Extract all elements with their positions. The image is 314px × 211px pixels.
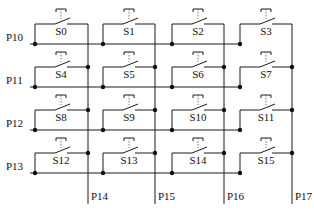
column-bus-p17: P17 [292,24,313,204]
column-bus-p15: P15 [155,24,176,204]
switch-s14: S14 [170,138,226,175]
junction-dot [170,171,174,175]
switch-label: S3 [260,25,272,37]
switch-s3: S3 [238,9,292,46]
switch-s9: S9 [101,95,157,132]
junction-dot [153,65,157,69]
junction-dot [290,108,294,112]
junction-dot [222,65,226,69]
junction-dot [290,65,294,69]
junction-dot [238,85,242,89]
switch-label: S1 [123,25,135,37]
column-label: P17 [295,190,313,202]
row-label: P10 [6,31,24,43]
switch-s15: S15 [238,138,294,175]
column-bus-p16: P16 [224,24,245,204]
switch-label: S7 [260,68,272,80]
switch-label: S9 [123,111,135,123]
junction-dot [101,42,105,46]
junction-dot [238,42,242,46]
switch-s2: S2 [170,9,224,46]
switch-s12: S12 [33,138,90,175]
switch-label: S15 [257,154,275,166]
junction-dot [101,128,105,132]
junction-dot [290,151,294,155]
switch-s8: S8 [33,95,90,132]
switch-label: S11 [258,111,275,123]
switch-label: S5 [123,68,135,80]
junction-dot [238,128,242,132]
switch-s1: S1 [101,9,155,46]
row-label: P11 [6,74,23,86]
junction-dot [33,85,37,89]
switch-s13: S13 [101,138,157,175]
switch-s7: S7 [238,52,294,89]
switch-label: S6 [192,68,204,80]
junction-dot [170,128,174,132]
column-bus-p14: P14 [88,24,109,204]
junction-dot [33,42,37,46]
junction-dot [86,65,90,69]
junction-dot [222,151,226,155]
junction-dot [33,128,37,132]
junction-dot [238,171,242,175]
junction-dot [86,151,90,155]
keypad-matrix-schematic: P10P11P12P13P14P15P16P17S0S1S2S3S4S5S6S7… [0,0,314,211]
junction-dot [101,171,105,175]
junction-dot [33,171,37,175]
switch-label: S12 [52,154,69,166]
switch-s4: S4 [33,52,90,89]
switch-s6: S6 [170,52,226,89]
switch-label: S0 [55,25,67,37]
row-label: P13 [6,160,24,172]
switch-s5: S5 [101,52,157,89]
column-label: P14 [91,190,109,202]
switch-label: S10 [189,111,207,123]
junction-dot [170,42,174,46]
junction-dot [170,85,174,89]
junction-dot [86,108,90,112]
junction-dot [153,108,157,112]
column-label: P15 [158,190,176,202]
junction-dot [101,85,105,89]
switch-s11: S11 [238,95,294,132]
switch-s0: S0 [33,9,88,46]
switch-label: S4 [55,68,67,80]
switch-s10: S10 [170,95,226,132]
switch-label: S2 [192,25,204,37]
junction-dot [153,151,157,155]
switch-label: S14 [189,154,207,166]
column-label: P16 [227,190,245,202]
junction-dot [222,108,226,112]
row-label: P12 [6,117,23,129]
switch-label: S8 [55,111,67,123]
switch-label: S13 [120,154,138,166]
